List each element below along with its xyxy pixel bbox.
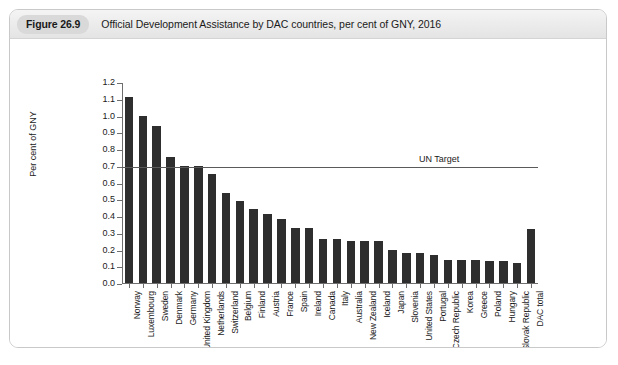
x-tick bbox=[240, 284, 241, 288]
y-tick bbox=[117, 200, 122, 201]
x-tick bbox=[392, 284, 393, 288]
x-tick-label: Switzerland bbox=[230, 291, 240, 334]
bar bbox=[499, 261, 508, 283]
x-tick-label: Hungary bbox=[507, 291, 517, 322]
x-tick-label: Luxembourg bbox=[146, 291, 156, 337]
y-tick-label: 0.7 bbox=[102, 161, 115, 171]
x-tick-label: Norway bbox=[132, 291, 142, 319]
y-tick bbox=[117, 251, 122, 252]
x-tick-label: Iceland bbox=[382, 291, 392, 318]
x-tick bbox=[143, 284, 144, 288]
bar bbox=[457, 260, 466, 283]
y-tick bbox=[117, 150, 122, 151]
x-tick bbox=[531, 284, 532, 288]
x-tick bbox=[379, 284, 380, 288]
bar bbox=[471, 260, 480, 283]
x-tick-label: Australia bbox=[354, 291, 364, 323]
bar bbox=[513, 263, 522, 283]
bar bbox=[249, 209, 258, 283]
x-tick-label: Sweden bbox=[160, 291, 170, 321]
figure-header: Figure 26.9 Official Development Assista… bbox=[10, 10, 606, 39]
bar bbox=[125, 97, 134, 283]
y-tick-label: 0.5 bbox=[102, 194, 115, 204]
x-tick-label: Poland bbox=[493, 291, 503, 317]
x-tick bbox=[503, 284, 504, 288]
x-tick bbox=[434, 284, 435, 288]
figure-number-badge: Figure 26.9 bbox=[17, 15, 89, 34]
bar bbox=[236, 201, 245, 283]
x-tick-label: France bbox=[285, 291, 295, 317]
y-tick-label: 0.2 bbox=[102, 245, 115, 255]
x-tick-label: DAC total bbox=[535, 291, 545, 326]
y-tick-label: 1.0 bbox=[102, 111, 115, 121]
x-tick-label: Austria bbox=[271, 291, 281, 317]
bar bbox=[485, 261, 494, 283]
y-tick bbox=[117, 217, 122, 218]
y-tick-label: 0.0 bbox=[102, 278, 115, 288]
bar bbox=[222, 193, 231, 283]
x-tick bbox=[462, 284, 463, 288]
x-tick-label: Canada bbox=[327, 291, 337, 320]
bar bbox=[333, 239, 342, 283]
y-tick bbox=[117, 234, 122, 235]
x-tick bbox=[489, 284, 490, 288]
bar bbox=[139, 116, 148, 284]
x-tick bbox=[198, 284, 199, 288]
x-tick bbox=[171, 284, 172, 288]
x-tick-label: Italy bbox=[340, 291, 350, 306]
y-tick bbox=[117, 83, 122, 84]
figure-container: Figure 26.9 Official Development Assista… bbox=[9, 9, 607, 348]
x-tick-label: Ireland bbox=[313, 291, 323, 316]
x-tick bbox=[254, 284, 255, 288]
y-tick-label: 0.3 bbox=[102, 228, 115, 238]
y-tick-label: 0.1 bbox=[102, 261, 115, 271]
y-tick-label: 0.9 bbox=[102, 127, 115, 137]
y-tick bbox=[117, 117, 122, 118]
bar bbox=[208, 174, 217, 283]
bar bbox=[388, 250, 397, 284]
bar bbox=[360, 241, 369, 283]
y-tick bbox=[117, 284, 122, 285]
x-tick-label: United States bbox=[424, 291, 434, 341]
y-tick bbox=[117, 267, 122, 268]
x-tick-label: Finland bbox=[257, 291, 267, 318]
x-tick bbox=[351, 284, 352, 288]
y-tick bbox=[117, 133, 122, 134]
bar bbox=[194, 166, 203, 283]
x-tick bbox=[448, 284, 449, 288]
bar bbox=[263, 214, 272, 283]
y-tick-label: 1.2 bbox=[102, 77, 115, 87]
bar bbox=[416, 253, 425, 283]
x-tick-label: Spain bbox=[299, 291, 309, 312]
x-tick-label: Japan bbox=[396, 291, 406, 314]
bar bbox=[291, 228, 300, 283]
x-tick-label: Czech Republic bbox=[451, 291, 461, 348]
x-tick-label: Greece bbox=[479, 291, 489, 318]
bar bbox=[319, 239, 328, 283]
x-tick bbox=[476, 284, 477, 288]
y-axis-line bbox=[122, 83, 123, 284]
x-tick bbox=[337, 284, 338, 288]
x-tick-label: Netherlands bbox=[216, 291, 226, 336]
x-tick bbox=[212, 284, 213, 288]
bar bbox=[430, 255, 439, 283]
figure-caption: Official Development Assistance by DAC c… bbox=[101, 18, 441, 30]
y-tick bbox=[117, 100, 122, 101]
y-tick bbox=[117, 184, 122, 185]
x-tick-label: Belgium bbox=[243, 291, 253, 321]
x-tick-label: Germany bbox=[188, 291, 198, 325]
y-tick-label: 0.6 bbox=[102, 178, 115, 188]
y-axis-title: Per cent of GNY bbox=[28, 74, 38, 214]
bar bbox=[444, 260, 453, 283]
bar bbox=[374, 241, 383, 283]
x-tick-label: Slovak Republic bbox=[521, 291, 531, 348]
x-tick bbox=[406, 284, 407, 288]
y-tick-label: 0.4 bbox=[102, 211, 115, 221]
bar bbox=[166, 157, 175, 283]
x-tick bbox=[517, 284, 518, 288]
x-tick-label: New Zealand bbox=[368, 291, 378, 340]
un-target-label: UN Target bbox=[419, 154, 459, 164]
bar bbox=[347, 241, 356, 283]
x-tick-label: Korea bbox=[465, 291, 475, 313]
un-target-line bbox=[122, 167, 538, 168]
